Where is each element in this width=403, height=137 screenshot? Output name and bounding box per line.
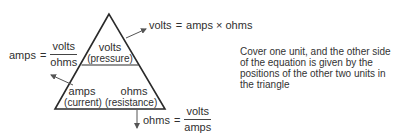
amps-eq-lhs: amps — [9, 49, 36, 61]
amps-eq-denominator: ohms — [50, 56, 77, 69]
ohms-eq-lhs: ohms — [143, 114, 170, 126]
fraction-bar — [184, 119, 211, 120]
amps-equation: amps = volts ohms — [9, 40, 77, 69]
ohms-equation: ohms = volts amps — [143, 105, 211, 134]
explanation-note: Cover one unit, and the other side of th… — [240, 46, 400, 90]
volts-equation: volts = amps × ohms — [149, 19, 252, 31]
ohms-law-diagram: volts (pressure) amps (current) ohms (re… — [0, 0, 403, 137]
amps-eq-fraction: volts ohms — [50, 40, 77, 69]
ohms-eq-equals: = — [174, 114, 180, 126]
ohms-label: ohms — [116, 85, 152, 97]
ohms-eq-numerator: volts — [186, 105, 209, 118]
amps-eq-equals: = — [40, 49, 46, 61]
fraction-bar — [50, 54, 77, 55]
volts-label: volts — [92, 41, 128, 53]
amps-label: amps — [64, 85, 100, 97]
current-label: (current) — [62, 97, 104, 108]
arrow-volts — [126, 29, 146, 38]
pressure-label: (pressure) — [83, 53, 137, 64]
ohms-eq-denominator: amps — [184, 121, 211, 134]
volts-eq-rhs: amps × ohms — [186, 19, 252, 31]
arrow-amps — [51, 75, 73, 85]
ohms-eq-fraction: volts amps — [184, 105, 211, 134]
volts-eq-equals: = — [176, 19, 182, 31]
amps-eq-numerator: volts — [52, 40, 75, 53]
volts-eq-lhs: volts — [149, 19, 172, 31]
